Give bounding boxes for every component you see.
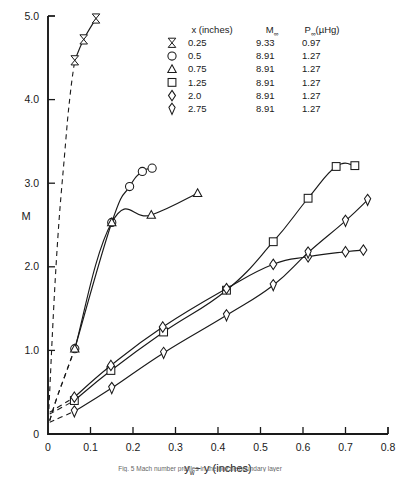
y-tick-label: 1.0: [24, 344, 39, 356]
data-marker-diamond: [270, 259, 277, 269]
mach-number-profile-figure: x (inches)M∞P∞(µHg)0.259.330.970.58.911.…: [0, 0, 400, 478]
legend-mach-value: 9.33: [256, 37, 275, 48]
dashed-extrapolation: [50, 411, 75, 422]
y-tick-label: 2.0: [24, 260, 39, 272]
data-marker-diamond: [342, 247, 349, 257]
legend-mach-value: 8.91: [256, 77, 275, 88]
data-marker-diamond: [169, 90, 176, 100]
y-tick-label: 0: [33, 428, 39, 440]
legend-mach-value: 8.91: [256, 90, 275, 101]
data-marker-diamond-tall: [342, 215, 348, 226]
data-marker-flag: [71, 56, 79, 65]
axis-lines: [48, 16, 388, 434]
solid-curve: [74, 250, 363, 397]
x-tick-label: 0.1: [83, 441, 98, 453]
data-marker-square: [168, 79, 176, 87]
data-marker-diamond-tall: [223, 310, 229, 321]
data-marker-circle: [138, 167, 146, 175]
data-marker-diamond-tall: [169, 103, 175, 114]
legend-x-value: 0.75: [188, 63, 207, 74]
x-tick-label: 0: [45, 441, 51, 453]
x-tick-label: 0.7: [338, 441, 353, 453]
solid-curve: [75, 168, 152, 349]
y-tick-label: 5.0: [24, 10, 39, 22]
solid-curve: [74, 200, 367, 412]
legend-row: 0.259.330.97: [168, 37, 320, 48]
solid-curve: [74, 163, 355, 400]
legend-x-value: 2.0: [188, 90, 201, 101]
legend-row: 2.758.911.27: [169, 103, 321, 114]
data-marker-diamond-tall: [161, 347, 167, 358]
legend-pressure-value: 1.27: [302, 77, 321, 88]
figure-caption: Fig. 5 Mach number profiles in the nozzl…: [0, 465, 400, 472]
legend-mach-value: 8.91: [256, 63, 275, 74]
data-curves: [49, 14, 371, 422]
data-marker-flag: [168, 38, 176, 47]
data-marker-diamond-tall: [109, 382, 115, 393]
data-marker-diamond: [360, 245, 367, 255]
legend-pressure-value: 1.27: [302, 50, 321, 61]
solid-curve: [75, 19, 96, 61]
legend-header-pressure: P∞(µHg): [305, 24, 340, 37]
data-marker-square: [269, 238, 277, 246]
legend-pressure-value: 1.27: [302, 90, 321, 101]
data-marker-square: [304, 194, 312, 202]
data-marker-flag: [80, 35, 88, 44]
data-marker-diamond-tall: [365, 194, 371, 205]
data-marker-square: [332, 163, 340, 171]
axis-labels: Myw− y (inches): [21, 210, 251, 476]
x-tick-label: 0.8: [381, 441, 396, 453]
legend-header-mach: M∞: [266, 24, 279, 37]
legend: x (inches)M∞P∞(µHg)0.259.330.970.58.911.…: [168, 24, 340, 114]
legend-mach-value: 8.91: [256, 103, 275, 114]
y-tick-label: 3.0: [24, 177, 39, 189]
series-triangle: [50, 189, 202, 421]
legend-x-value: 2.75: [188, 103, 207, 114]
data-marker-circle: [148, 164, 156, 172]
legend-pressure-value: 1.27: [302, 63, 321, 74]
x-tick-label: 0.6: [296, 441, 311, 453]
legend-pressure-value: 1.27: [302, 103, 321, 114]
data-marker-diamond-tall: [71, 406, 77, 417]
x-tick-label: 0.4: [211, 441, 226, 453]
data-marker-circle: [168, 52, 176, 60]
x-tick-label: 0.3: [168, 441, 183, 453]
solid-curve: [75, 193, 198, 348]
legend-row: 1.258.911.27: [168, 77, 320, 88]
data-marker-circle: [126, 182, 134, 190]
y-tick-label: 4.0: [24, 93, 39, 105]
legend-header-x: x (inches): [191, 24, 232, 35]
data-marker-flag: [92, 14, 100, 23]
axes: 01.02.03.04.05.000.10.20.30.40.50.60.70.…: [24, 10, 395, 453]
data-marker-triangle: [193, 189, 201, 197]
legend-x-value: 1.25: [188, 77, 207, 88]
y-axis-title: M: [21, 210, 30, 222]
data-marker-square: [351, 162, 359, 170]
legend-mach-value: 8.91: [256, 50, 275, 61]
legend-x-value: 0.25: [188, 37, 207, 48]
x-tick-label: 0.5: [253, 441, 268, 453]
series-square: [50, 162, 359, 414]
data-marker-diamond-tall: [270, 280, 276, 291]
legend-x-value: 0.5: [188, 50, 201, 61]
data-marker-triangle: [168, 65, 176, 73]
series-circle: [50, 164, 157, 421]
x-tick-label: 0.2: [126, 441, 141, 453]
dashed-extrapolation: [49, 60, 75, 409]
legend-row: 0.758.911.27: [168, 63, 321, 74]
legend-pressure-value: 0.97: [302, 37, 321, 48]
series-diamond-tall: [50, 194, 371, 422]
legend-row: 2.08.911.27: [169, 90, 321, 101]
legend-row: 0.58.911.27: [168, 50, 321, 61]
